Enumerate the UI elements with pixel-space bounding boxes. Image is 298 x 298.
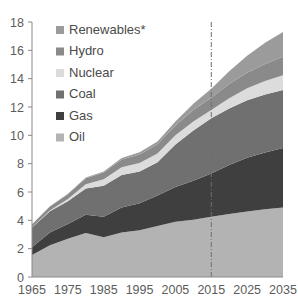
x-tick-label: 2025 — [233, 283, 261, 297]
legend-label-renewables: Renewables* — [69, 22, 146, 37]
stacked-area-chart: 024681012141618 196519751985199520052015… — [0, 0, 298, 298]
x-tick-label: 1995 — [126, 283, 154, 297]
x-tick-label: 2035 — [269, 283, 297, 297]
y-tick-label: 4 — [17, 214, 24, 228]
y-tick-label: 2 — [17, 242, 24, 256]
y-tick-label: 6 — [17, 186, 24, 200]
y-tick-label: 18 — [10, 16, 24, 30]
x-tick-label: 2015 — [197, 283, 225, 297]
y-tick-label: 8 — [17, 157, 24, 171]
legend-swatch-renewables — [56, 26, 64, 34]
x-axis-tick-labels: 19651975198519952005201520252035 — [18, 283, 297, 297]
y-tick-label: 16 — [10, 44, 24, 58]
legend-swatch-oil — [56, 134, 64, 142]
legend-label-nuclear: Nuclear — [69, 65, 114, 80]
x-tick-label: 2005 — [162, 283, 190, 297]
legend-swatch-coal — [56, 91, 64, 99]
y-tick-label: 14 — [10, 72, 24, 86]
chart-canvas: 024681012141618 196519751985199520052015… — [0, 0, 298, 298]
y-tick-label: 12 — [10, 101, 24, 115]
legend-swatch-hydro — [56, 48, 64, 56]
chart-legend: Renewables*HydroNuclearCoalGasOil — [56, 22, 146, 145]
legend-label-oil: Oil — [69, 129, 85, 144]
x-tick-label: 1965 — [18, 283, 46, 297]
x-tick-label: 1985 — [90, 283, 118, 297]
legend-swatch-gas — [56, 112, 64, 120]
legend-label-hydro: Hydro — [69, 43, 104, 58]
y-tick-label: 10 — [10, 129, 24, 143]
legend-label-gas: Gas — [69, 108, 93, 123]
legend-swatch-nuclear — [56, 69, 64, 77]
y-axis-tick-labels: 024681012141618 — [10, 16, 24, 285]
x-tick-label: 1975 — [54, 283, 82, 297]
legend-label-coal: Coal — [69, 86, 96, 101]
